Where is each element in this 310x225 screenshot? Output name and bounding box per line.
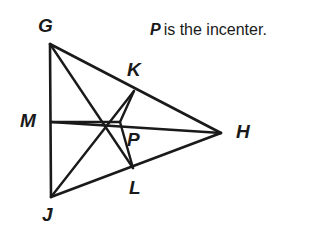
vertex-label-H: H [236, 122, 250, 141]
incenter-caption: Pis the incenter. [150, 22, 267, 38]
caption-variable: P [150, 21, 164, 38]
point-label-K: K [127, 60, 141, 79]
caption-text: is the incenter. [164, 21, 267, 38]
segment-side-GJ [50, 44, 51, 197]
vertex-label-J: J [42, 205, 53, 224]
vertex-label-G: G [38, 16, 53, 35]
segment-bisector-G-to-L [50, 44, 133, 168]
point-label-P: P [127, 130, 140, 149]
geometry-figure-canvas: G H J K L M P Pis the incenter. [0, 0, 310, 225]
segment-side-GH [50, 44, 221, 133]
point-label-M: M [20, 111, 36, 130]
point-label-L: L [129, 178, 141, 197]
